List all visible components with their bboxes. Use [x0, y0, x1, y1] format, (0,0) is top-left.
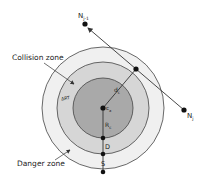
middle-boundary-point — [101, 152, 106, 157]
node-curr-label: Nj — [187, 112, 194, 121]
node-prev-point — [82, 21, 87, 26]
d-gap-label: D — [105, 143, 110, 151]
center-point — [100, 105, 105, 110]
node-curr-point — [181, 107, 186, 112]
diagram-canvas: Collision zone Danger zone Nj-1 Nj dc ca… — [0, 0, 206, 183]
danger-zone-label: Danger zone — [17, 159, 65, 168]
foot-point — [133, 66, 138, 71]
outer-boundary-point — [101, 170, 106, 175]
s-gap-label: S — [101, 160, 105, 168]
node-prev-label: Nj-1 — [78, 12, 89, 21]
inner-boundary-point — [101, 136, 106, 141]
collision-zone-label: Collision zone — [12, 53, 64, 62]
zone-diagram: Collision zone Danger zone Nj-1 Nj dc ca… — [0, 0, 206, 183]
